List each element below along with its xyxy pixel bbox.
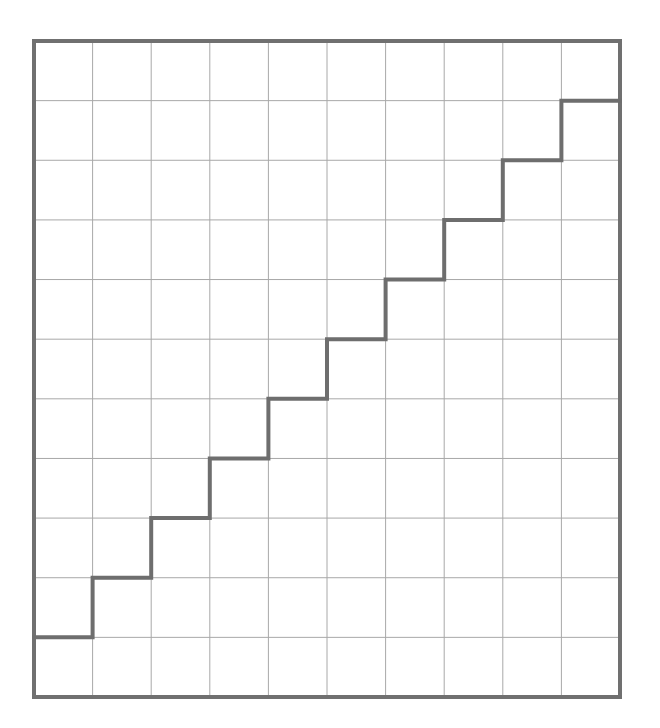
grid-staircase-diagram (0, 0, 660, 728)
